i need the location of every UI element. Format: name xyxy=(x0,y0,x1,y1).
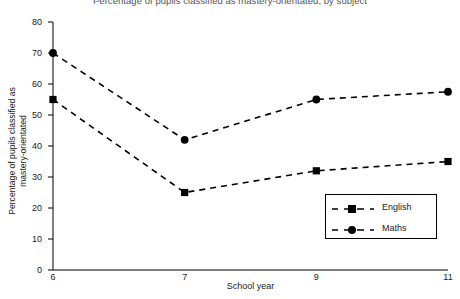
data-point-english xyxy=(181,189,188,196)
data-point-english xyxy=(313,167,320,174)
data-point-english xyxy=(49,96,56,103)
series-line-maths xyxy=(53,53,448,140)
data-point-maths xyxy=(181,136,189,144)
data-point-maths xyxy=(312,96,320,104)
chart-legend: English Maths xyxy=(325,194,437,239)
series-line-english xyxy=(53,100,448,193)
legend-label-maths: Maths xyxy=(382,223,407,233)
data-point-english xyxy=(444,158,451,165)
legend-item-maths: Maths xyxy=(326,217,438,239)
legend-marker-maths xyxy=(332,222,374,234)
chart-container: Percentage of pupils classified as maste… xyxy=(0,0,460,299)
plot-area xyxy=(0,0,460,299)
legend-item-english: English xyxy=(326,196,438,218)
legend-label-english: English xyxy=(382,202,412,212)
data-point-maths xyxy=(444,88,452,96)
data-point-maths xyxy=(49,49,57,57)
legend-marker-english xyxy=(332,201,374,213)
